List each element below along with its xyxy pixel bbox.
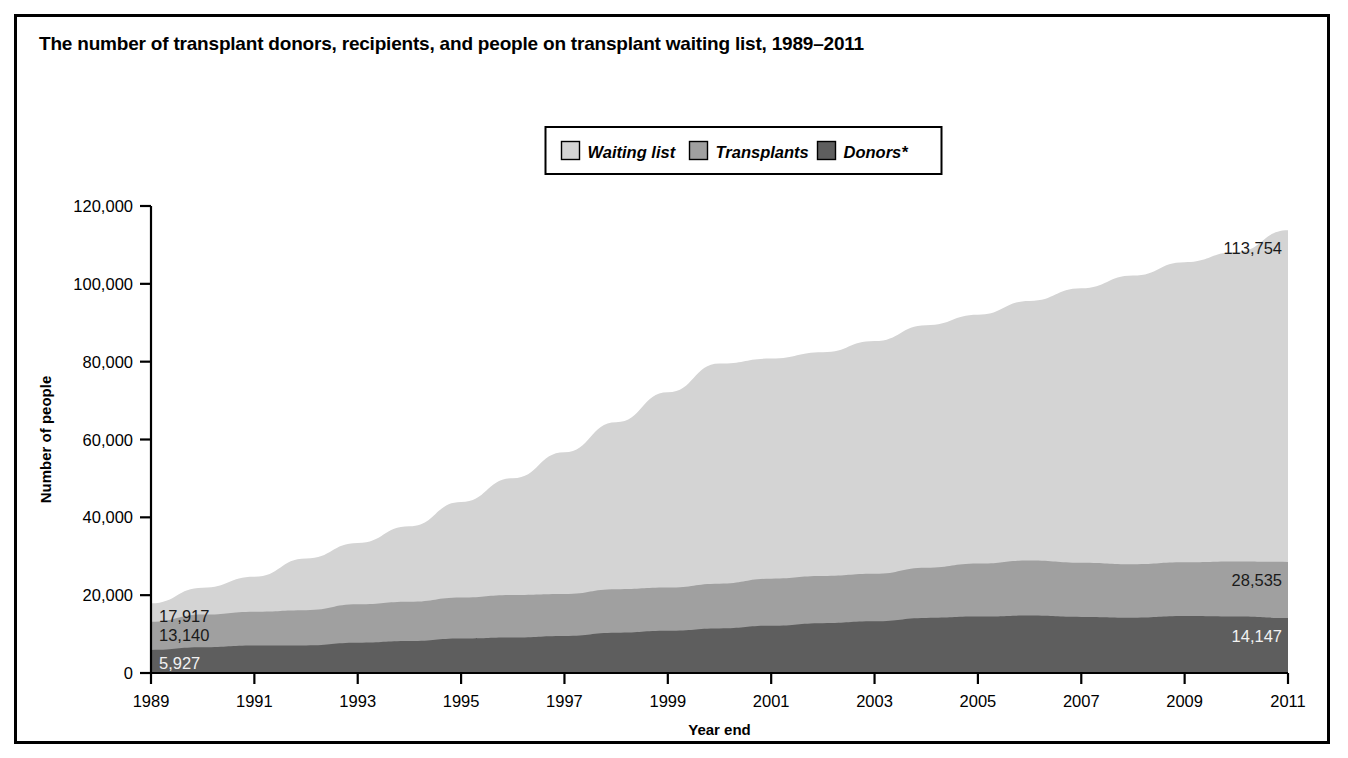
y-tick-label: 20,000 <box>83 586 133 604</box>
y-tick-label: 60,000 <box>83 431 133 449</box>
data-label-end-transplants: 28,535 <box>1232 571 1282 589</box>
area-chart: 020,00040,00060,00080,000100,000120,0001… <box>17 17 1333 747</box>
data-label-start-donors-: 5,927 <box>159 654 200 672</box>
legend-swatch-transplants[interactable] <box>690 142 708 160</box>
data-label-start-waiting-list: 17,917 <box>159 607 209 625</box>
x-tick-label: 2003 <box>856 692 893 710</box>
legend-swatch-donors[interactable] <box>818 142 836 160</box>
x-tick-label: 2011 <box>1270 692 1305 710</box>
figure-frame: The number of transplant donors, recipie… <box>14 14 1330 744</box>
x-tick-label: 1993 <box>339 692 376 710</box>
y-tick-label: 80,000 <box>83 353 133 371</box>
legend-label-transplants[interactable]: Transplants <box>716 143 809 161</box>
x-tick-label: 2005 <box>960 692 997 710</box>
x-axis-title: Year end <box>688 721 751 738</box>
legend-label-donors[interactable]: Donors* <box>844 143 910 161</box>
y-tick-label: 120,000 <box>73 197 133 215</box>
y-tick-label: 100,000 <box>73 275 133 293</box>
legend-label-waiting-list[interactable]: Waiting list <box>588 143 677 161</box>
x-tick-label: 1989 <box>133 692 170 710</box>
data-label-end-donors-: 14,147 <box>1232 627 1282 645</box>
y-tick-label: 0 <box>124 664 133 682</box>
data-label-start-transplants: 13,140 <box>159 626 209 644</box>
x-tick-label: 1995 <box>443 692 480 710</box>
area-series-group <box>151 230 1288 673</box>
x-tick-label: 2001 <box>753 692 790 710</box>
data-label-end-waiting-list: 113,754 <box>1224 239 1282 257</box>
y-tick-label: 40,000 <box>83 508 133 526</box>
x-tick-label: 1999 <box>649 692 686 710</box>
x-tick-label: 2009 <box>1166 692 1203 710</box>
chart-canvas: 020,00040,00060,00080,000100,000120,0001… <box>17 17 1333 747</box>
y-axis-title: Number of people <box>37 376 54 504</box>
x-tick-label: 2007 <box>1063 692 1100 710</box>
x-tick-label: 1991 <box>236 692 273 710</box>
x-tick-label: 1997 <box>546 692 583 710</box>
legend-swatch-waiting-list[interactable] <box>562 142 580 160</box>
chart-legend: Waiting listTransplantsDonors* <box>546 127 942 174</box>
